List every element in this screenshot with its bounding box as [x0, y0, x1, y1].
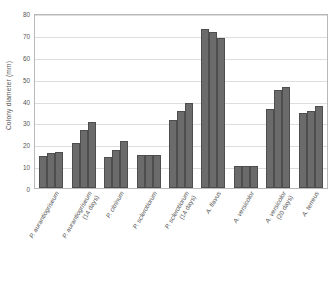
- bar: [72, 143, 80, 188]
- bar-group: [169, 15, 193, 188]
- bar: [39, 156, 47, 188]
- y-axis-tick-label: 50: [23, 76, 30, 83]
- y-axis-tick-label: 80: [23, 11, 30, 18]
- x-axis-tick-label-line2: (14 days): [178, 194, 198, 221]
- bar: [120, 141, 128, 188]
- bar: [315, 106, 323, 188]
- bar-group: [266, 15, 290, 188]
- bar: [209, 32, 217, 188]
- bar: [80, 130, 88, 188]
- plot-area: [34, 14, 328, 189]
- y-axis-tick-label: 60: [23, 54, 30, 61]
- x-axis-tick-label-line1: P. aurantiogriseum: [61, 190, 94, 240]
- bar: [47, 153, 55, 188]
- bar: [201, 29, 209, 188]
- bar: [266, 109, 274, 188]
- x-axis-tick-label-line1: P. sclerotiorum: [131, 190, 159, 230]
- bar: [153, 155, 161, 188]
- x-axis-tick-label-line1: A. terreus: [300, 190, 321, 218]
- bar-group: [72, 15, 96, 188]
- y-axis-tick-label: 30: [23, 120, 30, 127]
- x-axis-tick-label: P. sclerotiorum: [104, 190, 235, 287]
- bar: [234, 166, 242, 188]
- bar-group: [137, 15, 161, 188]
- bar-series: [35, 15, 327, 188]
- x-axis-tick-label: A. terreus: [266, 190, 336, 287]
- x-axis-tick-label-line1: A. versicolor: [231, 190, 256, 224]
- y-axis-tick-label: 20: [23, 142, 30, 149]
- x-axis-tick-label-line1: P. sclerotiorum: [163, 190, 191, 230]
- x-axis-tick-label: P. citrinum: [71, 190, 202, 287]
- bar: [112, 150, 120, 189]
- bar-group: [104, 15, 128, 188]
- bar: [145, 155, 153, 188]
- y-axis-tick-labels: 01020304050607080: [16, 14, 32, 189]
- bar-group: [234, 15, 258, 188]
- x-axis-tick-label: P. aurantiogriseum(14 days): [39, 190, 170, 287]
- x-axis-tick-label: P. sclerotiorum(14 days): [136, 190, 267, 287]
- bar-group: [299, 15, 323, 188]
- x-axis-tick-label-line1: A. versicolor: [263, 190, 288, 224]
- y-axis-tick-label: 10: [23, 164, 30, 171]
- bar: [177, 111, 185, 188]
- bar: [307, 111, 315, 188]
- x-axis-tick-label-line1: P. citrinum: [104, 190, 126, 219]
- bar-group: [201, 15, 225, 188]
- bar: [282, 87, 290, 188]
- bar: [217, 38, 225, 189]
- bar: [299, 113, 307, 188]
- bar: [250, 166, 258, 188]
- bar: [55, 152, 63, 188]
- bar: [88, 122, 96, 188]
- y-axis-title-text: Colony diameter (mm): [6, 60, 13, 129]
- x-axis-tick-label: A. flavus: [168, 190, 299, 287]
- x-axis-tick-labels: P. aurantiogriseumP. aurantiogriseum(14 …: [34, 190, 328, 287]
- bar: [185, 103, 193, 188]
- x-axis-tick-label: A. versicolor: [201, 190, 332, 287]
- x-axis-tick-label-line1: A. flavus: [204, 190, 223, 215]
- bar: [274, 90, 282, 188]
- bar-chart: Colony diameter (mm) 01020304050607080 P…: [0, 0, 336, 287]
- x-axis-tick-label-line1: P. aurantiogriseum: [28, 190, 61, 240]
- y-axis-tick-label: 0: [26, 186, 30, 193]
- bar-group: [39, 15, 63, 188]
- bar: [242, 166, 250, 188]
- x-axis-tick-label-line2: (20 days): [275, 194, 295, 221]
- y-axis-tick-label: 40: [23, 98, 30, 105]
- y-axis-tick-label: 70: [23, 32, 30, 39]
- bar: [169, 120, 177, 188]
- x-axis-tick-label-line2: (14 days): [81, 194, 101, 221]
- x-axis-tick-label: A. versicolor(20 days): [233, 190, 336, 287]
- bar: [137, 155, 145, 188]
- x-axis-tick-label: P. aurantiogriseum: [6, 190, 137, 287]
- bar: [104, 157, 112, 188]
